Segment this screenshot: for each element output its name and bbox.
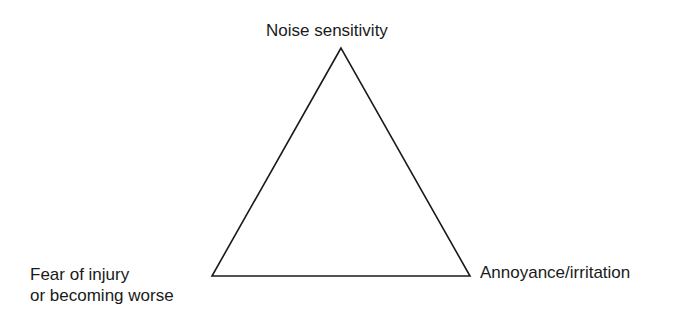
label-noise-sensitivity: Noise sensitivity [266, 20, 388, 41]
label-fear-of-injury-line1: Fear of injury [30, 264, 129, 285]
label-annoyance-irritation: Annoyance/irritation [480, 262, 630, 283]
label-fear-of-injury-line2: or becoming worse [30, 285, 174, 306]
diagram-canvas: Noise sensitivity Fear of injury or beco… [0, 0, 698, 321]
